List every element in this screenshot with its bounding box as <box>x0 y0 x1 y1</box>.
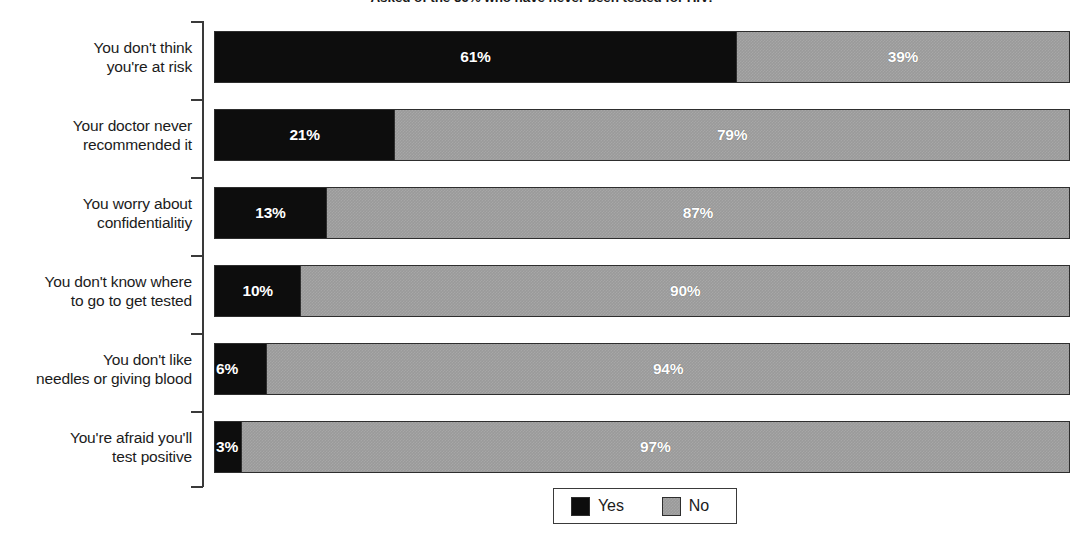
legend-item-no[interactable]: No <box>662 497 709 516</box>
bar-value-yes: 13% <box>255 204 285 222</box>
axis-tick <box>191 411 203 413</box>
category-label: You don't think you're at risk <box>0 38 192 76</box>
axis-tick <box>191 21 203 23</box>
legend-label-no: No <box>689 497 709 515</box>
bar-segment-yes[interactable]: 61% <box>215 32 736 82</box>
axis-tick <box>191 486 203 488</box>
bar-value-no: 39% <box>888 48 918 66</box>
category-label: You're afraid you'll test positive <box>0 428 192 466</box>
bar-value-no: 79% <box>717 126 747 144</box>
axis-tick <box>191 99 203 101</box>
bar-track: 21% 79% <box>214 109 1070 161</box>
bar-value-no: 94% <box>653 360 683 378</box>
bar-value-no: 87% <box>683 204 713 222</box>
bar-segment-no[interactable]: 90% <box>300 266 1069 316</box>
legend-item-yes[interactable]: Yes <box>571 497 624 516</box>
chart-legend: Yes No <box>553 488 737 524</box>
category-axis-line <box>202 21 204 487</box>
bar-segment-yes[interactable]: 21% <box>215 110 394 160</box>
category-label: Your doctor never recommended it <box>0 116 192 154</box>
bar-segment-yes[interactable]: 13% <box>215 188 326 238</box>
legend-label-yes: Yes <box>598 497 624 515</box>
bar-value-yes: 10% <box>242 282 272 300</box>
axis-tick <box>191 177 203 179</box>
legend-swatch-yes-icon <box>571 497 590 516</box>
stacked-bar-chart: Asked of the 56% who have never been tes… <box>0 0 1083 547</box>
bar-segment-no[interactable]: 39% <box>736 32 1069 82</box>
chart-title: Asked of the 56% who have never been tes… <box>0 0 1083 5</box>
bar-track: 6% 94% <box>214 343 1070 395</box>
legend-swatch-no-icon <box>662 497 681 516</box>
bar-value-yes: 61% <box>460 48 490 66</box>
bar-track: 61% 39% <box>214 31 1070 83</box>
category-label: You don't like needles or giving blood <box>0 350 192 388</box>
bar-value-no: 97% <box>640 438 670 456</box>
bar-segment-yes[interactable]: 10% <box>215 266 300 316</box>
bar-segment-no[interactable]: 97% <box>241 422 1069 472</box>
bar-segment-no[interactable]: 79% <box>394 110 1069 160</box>
category-label: You worry about confidentialitiy <box>0 194 192 232</box>
bar-track: 10% 90% <box>214 265 1070 317</box>
category-label: You don't know where to go to get tested <box>0 272 192 310</box>
bar-track: 13% 87% <box>214 187 1070 239</box>
axis-tick <box>191 333 203 335</box>
bar-track: 3% 97% <box>214 421 1070 473</box>
bar-segment-yes[interactable]: 6% <box>215 344 266 394</box>
bar-segment-no[interactable]: 87% <box>326 188 1069 238</box>
bar-value-no: 90% <box>670 282 700 300</box>
bar-segment-yes[interactable]: 3% <box>215 422 241 472</box>
bar-value-yes: 21% <box>289 126 319 144</box>
axis-tick <box>191 255 203 257</box>
bar-segment-no[interactable]: 94% <box>266 344 1069 394</box>
bar-value-yes: 6% <box>216 360 238 378</box>
bar-value-yes: 3% <box>216 438 238 456</box>
